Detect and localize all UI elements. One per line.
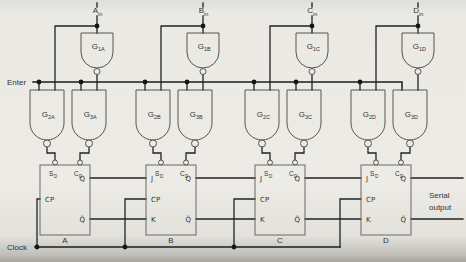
serial-output-label-line1: Serial bbox=[429, 191, 450, 200]
pin-label-q: Q bbox=[400, 175, 406, 183]
input-a-label-sub: in bbox=[98, 11, 102, 17]
pin-label-cp: CP bbox=[45, 196, 54, 204]
pin-label-j: J bbox=[150, 175, 153, 183]
flipflop-c-label: C bbox=[277, 236, 283, 245]
pin-label-qbar: Q̄ bbox=[294, 215, 300, 224]
g3b-label-sub: 3B bbox=[196, 114, 203, 120]
c-input-wires bbox=[270, 3, 312, 90]
pin-label-cp: CP bbox=[260, 196, 269, 204]
pin-label-cp: CP bbox=[151, 196, 160, 204]
g1d-bubble bbox=[415, 69, 421, 75]
sd-pin-circle bbox=[159, 160, 164, 165]
g1c-label-sub: 1C bbox=[313, 46, 320, 52]
b-cp-wire bbox=[125, 199, 146, 247]
pin-label-sd-sub: D bbox=[375, 174, 379, 179]
cd-pin-circle bbox=[399, 160, 404, 165]
pin-label-j: J bbox=[259, 175, 262, 183]
pin-label-sd-sub: D bbox=[269, 174, 273, 179]
g3d-label-sub: 3D bbox=[411, 114, 418, 120]
enter-label: Enter bbox=[7, 78, 26, 87]
input-b-label-sub: in bbox=[204, 11, 208, 17]
junction-dot bbox=[79, 80, 84, 85]
g1a-label-sub: 1A bbox=[98, 46, 105, 52]
flipflop-b-label: B bbox=[168, 236, 173, 245]
junction-dot bbox=[416, 24, 421, 29]
c-cp-wire bbox=[234, 199, 255, 247]
pin-label-sd-sub: D bbox=[54, 174, 58, 179]
pin-label-sd-sub: D bbox=[160, 174, 164, 179]
pin-label-k: K bbox=[151, 216, 156, 224]
junction-dot bbox=[358, 80, 363, 85]
pin-label-q: Q bbox=[79, 175, 85, 183]
g1b-bubble bbox=[200, 69, 206, 75]
pin-label-qbar: Q̄ bbox=[79, 215, 85, 224]
cd-pin-circle bbox=[184, 160, 189, 165]
b-input-wires bbox=[161, 3, 203, 90]
pin-label-k: K bbox=[366, 216, 371, 224]
g2d-label-sub: 2D bbox=[369, 114, 376, 120]
g3a-label-sub: 3A bbox=[90, 114, 97, 120]
junction-dot bbox=[95, 24, 100, 29]
junction-dot bbox=[185, 80, 190, 85]
g2b-bubble bbox=[150, 140, 157, 147]
clock-label: Clock bbox=[7, 243, 28, 252]
pin-label-q: Q bbox=[294, 175, 300, 183]
input-d-label-sub: in bbox=[419, 11, 423, 17]
sd-pin-circle bbox=[374, 160, 379, 165]
shift-register-schematic: Enter Clock Serial output A in G 1A G 2A… bbox=[0, 0, 466, 262]
pin-label-qbar: Q̄ bbox=[185, 215, 191, 224]
g2b-label-sub: 2B bbox=[154, 114, 161, 120]
schematic-page: Enter Clock Serial output A in G 1A G 2A… bbox=[0, 0, 466, 262]
flipflop-d-label: D bbox=[383, 236, 389, 245]
section-b: B in G 1B G 2B G 3B S D C D J Q CP K Q̄ … bbox=[123, 3, 255, 249]
input-c-label-sub: in bbox=[313, 11, 317, 17]
junction-dot bbox=[294, 80, 299, 85]
g3c-bubble bbox=[301, 140, 308, 147]
sd-pin-circle bbox=[268, 160, 273, 165]
g1d-label-sub: 1D bbox=[419, 46, 426, 52]
junction-dot bbox=[201, 24, 206, 29]
section-c: C in G 1C G 2C G 3C S D C D J Q CP K Q̄ … bbox=[232, 3, 361, 249]
cd-pin-circle bbox=[293, 160, 298, 165]
junction-dot bbox=[310, 24, 315, 29]
g1a-bubble bbox=[94, 69, 100, 75]
g2c-label-sub: 2C bbox=[263, 114, 270, 120]
pin-label-j: J bbox=[365, 175, 368, 183]
g3d-bubble bbox=[407, 140, 414, 147]
g3a-bubble bbox=[86, 140, 93, 147]
junction-dot bbox=[232, 245, 237, 250]
g1c-bubble bbox=[309, 69, 315, 75]
enter-bus-line bbox=[33, 82, 402, 90]
g3b-bubble bbox=[192, 140, 199, 147]
section-a: A in G 1A G 2A G 3A S D C D Q CP Q̄ A bbox=[30, 3, 146, 249]
junction-dot bbox=[143, 80, 148, 85]
serial-output-label-line2: output bbox=[429, 203, 452, 212]
pin-label-q: Q bbox=[185, 175, 191, 183]
junction-dot bbox=[37, 80, 42, 85]
junction-dot bbox=[252, 80, 257, 85]
a-input-wires bbox=[55, 3, 97, 90]
pin-label-k: K bbox=[260, 216, 265, 224]
d-cp-wire bbox=[340, 199, 361, 247]
cd-pin-circle bbox=[78, 160, 83, 165]
pin-label-cp: CP bbox=[366, 196, 375, 204]
g2c-bubble bbox=[259, 140, 266, 147]
g2a-bubble bbox=[44, 140, 51, 147]
g1b-label-sub: 1B bbox=[204, 46, 211, 52]
g2a-label-sub: 2A bbox=[48, 114, 55, 120]
g3c-label-sub: 3C bbox=[305, 114, 312, 120]
sd-pin-circle bbox=[53, 160, 58, 165]
pin-label-qbar: Q̄ bbox=[400, 215, 406, 224]
junction-dot bbox=[123, 245, 128, 250]
d-input-wires bbox=[376, 3, 418, 90]
g2d-bubble bbox=[365, 140, 372, 147]
flipflop-a-label: A bbox=[62, 236, 68, 245]
junction-dot bbox=[35, 245, 40, 250]
